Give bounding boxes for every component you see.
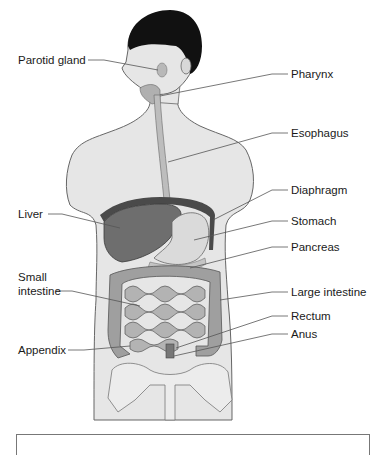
label-pharynx: Pharynx <box>291 68 333 81</box>
leader-large <box>220 292 288 300</box>
label-large-intestine: Large intestine <box>291 286 366 299</box>
label-anus: Anus <box>291 328 317 341</box>
label-liver: Liver <box>18 208 43 221</box>
ear <box>181 58 191 74</box>
label-small-line1: Small <box>18 271 47 284</box>
rectum <box>166 344 174 358</box>
label-pancreas: Pancreas <box>291 241 340 254</box>
parotid-gland <box>157 63 167 77</box>
label-diaphragm: Diaphragm <box>291 184 347 197</box>
caption-frame <box>16 434 370 455</box>
label-esophagus: Esophagus <box>291 127 349 140</box>
label-small-line2: intestine <box>18 285 61 298</box>
label-parotid-gland: Parotid gland <box>18 54 86 67</box>
label-appendix: Appendix <box>18 344 66 357</box>
label-stomach: Stomach <box>291 215 336 228</box>
label-rectum: Rectum <box>291 310 331 323</box>
